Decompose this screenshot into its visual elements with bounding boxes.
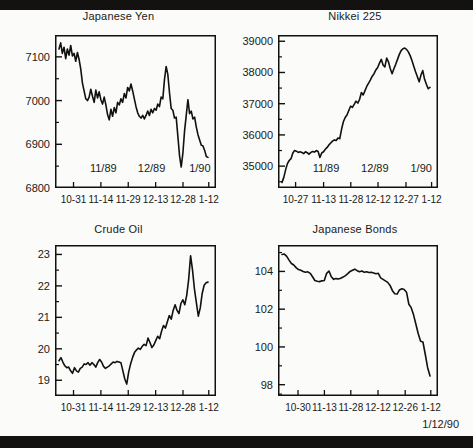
ytick-label: 36000 — [213, 129, 273, 141]
xtick-label: 1-12 — [199, 402, 219, 413]
inner-month-label: 11/89 — [90, 162, 117, 174]
xtick-label: 10-31 — [61, 402, 87, 413]
xtick-label: 11-14 — [88, 402, 113, 413]
ytick-label: 21 — [0, 311, 50, 323]
chart-title-nikkei-225: Nikkei 225 — [237, 10, 473, 22]
ytick-label: 23 — [0, 248, 50, 260]
xtick-label: 12-26 — [392, 402, 418, 413]
panel-japanese-bonds: Japanese Bonds 1/12/90 9810010210410-301… — [237, 223, 473, 436]
top-border-band — [0, 0, 473, 10]
chart-title-crude-oil: Crude Oil — [0, 223, 237, 235]
ytick-label: 37000 — [213, 98, 273, 110]
ytick-label: 104 — [213, 265, 273, 277]
plot-svg-crude-oil — [55, 245, 216, 396]
ytick-label: 6800 — [0, 182, 50, 194]
chart-title-japanese-bonds: Japanese Bonds — [237, 223, 473, 235]
ytick-label: 6900 — [0, 138, 50, 150]
plot-japanese-bonds — [278, 245, 438, 396]
plot-svg-japanese-bonds — [278, 245, 438, 396]
xtick-label: 12-13 — [143, 402, 169, 413]
ytick-label: 38000 — [213, 66, 273, 78]
ytick-label: 19 — [0, 374, 50, 386]
ytick-label: 102 — [213, 303, 273, 315]
panel-crude-oil: Crude Oil 192021222310-3111-1411-2912-13… — [0, 223, 237, 436]
xtick-label: 10-27 — [283, 194, 309, 205]
xtick-label: 11-28 — [338, 194, 363, 205]
xtick-label: 1-12 — [422, 194, 442, 205]
xtick-label: 12-12 — [365, 194, 391, 205]
ytick-label: 35000 — [213, 160, 273, 172]
ytick-label: 7100 — [0, 51, 50, 63]
xtick-label: 11-28 — [338, 402, 363, 413]
xtick-label: 11-14 — [88, 194, 113, 205]
chart-title-japanese-yen: Japanese Yen — [0, 10, 237, 22]
ytick-label: 98 — [213, 379, 273, 391]
xtick-label: 10-31 — [61, 194, 87, 205]
xtick-label: 11-13 — [312, 402, 337, 413]
xtick-label: 12-28 — [170, 402, 196, 413]
xtick-label: 10-30 — [285, 402, 311, 413]
bottom-border-band — [0, 436, 473, 448]
xtick-label: 11-29 — [116, 402, 141, 413]
ytick-label: 7000 — [0, 95, 50, 107]
inner-month-label: 1/90 — [189, 162, 210, 174]
inner-month-label: 12/89 — [361, 162, 389, 174]
figure-sheet: Japanese Yen 680069007000710010-3111-141… — [0, 10, 473, 436]
ytick-label: 20 — [0, 343, 50, 355]
inner-month-label: 11/89 — [313, 162, 340, 174]
ytick-label: 100 — [213, 341, 273, 353]
inner-month-label: 1/90 — [410, 162, 431, 174]
panel-japanese-yen: Japanese Yen 680069007000710010-3111-141… — [0, 10, 237, 223]
plot-crude-oil — [55, 245, 216, 396]
ytick-label: 22 — [0, 280, 50, 292]
xtick-label: 1-12 — [421, 402, 441, 413]
panel-nikkei-225: Nikkei 225 350003600037000380003900010-2… — [237, 10, 473, 223]
figure-caption: 1/12/90 — [422, 418, 459, 430]
xtick-label: 12-13 — [143, 194, 169, 205]
xtick-label: 11-13 — [311, 194, 336, 205]
ytick-label: 39000 — [213, 35, 273, 47]
xtick-label: 12-12 — [365, 402, 391, 413]
inner-month-label: 12/89 — [138, 162, 166, 174]
chart-grid: Japanese Yen 680069007000710010-3111-141… — [0, 10, 473, 436]
xtick-label: 12-28 — [170, 194, 196, 205]
xtick-label: 1-12 — [199, 194, 219, 205]
xtick-label: 12-27 — [393, 194, 419, 205]
xtick-label: 11-29 — [116, 194, 141, 205]
